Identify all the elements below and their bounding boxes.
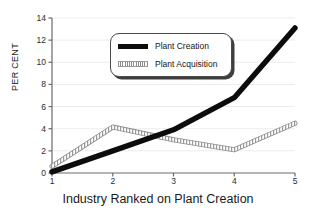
chart-figure: PER CENT 02468101214 12345 Industry Rank…	[0, 0, 316, 216]
x-tick-label: 1	[50, 177, 55, 186]
x-tick-label: 2	[110, 177, 115, 186]
x-tick-label: 4	[232, 177, 237, 186]
legend-label-plant-acquisition: Plant Acquisition	[155, 59, 217, 69]
x-axis-label: Industry Ranked on Plant Creation	[0, 192, 316, 206]
x-tick-label: 5	[293, 177, 298, 186]
legend-item-plant-acquisition: Plant Acquisition	[118, 59, 217, 69]
legend-swatch-plant-creation	[118, 44, 148, 49]
x-tick-labels: 12345	[0, 177, 316, 191]
x-tick-label: 3	[171, 177, 176, 186]
legend-label-plant-creation: Plant Creation	[155, 41, 209, 51]
legend: Plant Creation Plant Acquisition	[110, 33, 232, 77]
legend-item-plant-creation: Plant Creation	[118, 41, 209, 51]
legend-swatch-plant-acquisition	[118, 61, 148, 67]
